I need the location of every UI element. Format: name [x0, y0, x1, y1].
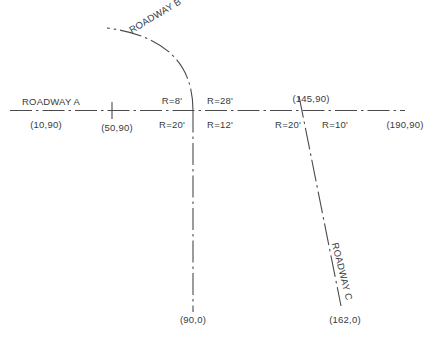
radius-label-b-nw-upper: R=8': [162, 96, 182, 106]
roadway-a-label: ROADWAY A: [22, 97, 80, 107]
station-label-a-center-right: (145,90): [293, 94, 330, 104]
radius-label-c-sw-lower: R=20': [275, 120, 301, 130]
centerline-geometry: [0, 0, 439, 337]
radius-label-b-sw-lower: R=20': [159, 120, 185, 130]
station-label-b-bottom: (90,0): [180, 315, 206, 325]
radius-label-b-ne-upper: R=28': [207, 96, 233, 106]
roadway-intersection-drawing: ROADWAY A ROADWAY B ROADWAY C (10,90) (5…: [0, 0, 439, 337]
station-label-a-tick: (50,90): [101, 123, 133, 133]
radius-label-b-se-lower: R=12': [207, 120, 233, 130]
station-label-a-left: (10,90): [30, 120, 62, 130]
station-label-c-bottom: (162,0): [329, 315, 361, 325]
radius-label-c-se-lower: R=10': [322, 120, 348, 130]
station-label-a-right: (190,90): [387, 120, 424, 130]
